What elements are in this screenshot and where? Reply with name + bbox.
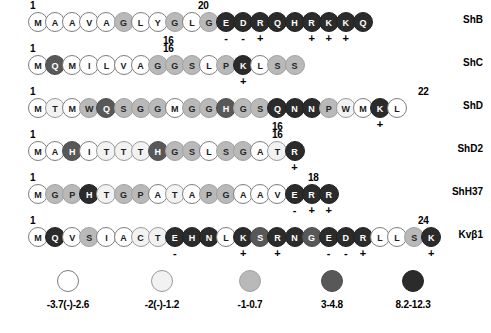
residue-bead-track: MTMWQSGGMGGHGSQNNPWMKL: [28, 98, 491, 119]
legend-swatch-circle: [239, 270, 261, 292]
start-position-label: 1: [30, 215, 35, 226]
legend-range-label: -3.7(-)-2.6: [18, 299, 118, 310]
legend-swatch-circle: [151, 270, 173, 292]
legend-item: -2(-)-1.2: [112, 262, 212, 310]
start-position-label: 1: [30, 86, 35, 97]
charge-sign: +: [336, 33, 356, 43]
charge-sign: -: [165, 248, 185, 258]
start-position-label: 1: [30, 0, 35, 11]
chain-name-label: ShD2: [457, 143, 483, 155]
charge-sign: +: [267, 248, 287, 258]
charge-sign: +: [421, 248, 441, 258]
charge-sign: +: [285, 162, 305, 172]
end-position-label: 22: [418, 86, 429, 97]
residue-number-row: 122: [0, 86, 491, 98]
sequence-row: 120MAAVAGLYGLGEDRQHRKKQ--++++16ShB: [0, 0, 491, 43]
end-position-label: 16: [272, 129, 283, 140]
sequence-row: 124MQVSIACTEHNLKSRNGEDRLLSK-++--++Kvβ1: [0, 215, 491, 258]
chain-name-label: ShD: [463, 100, 483, 112]
legend-swatch-circle: [57, 270, 79, 292]
legend-range-label: 8.2-12.3: [363, 299, 463, 310]
chain-name-label: ShH37: [452, 186, 483, 198]
start-position-label: 1: [30, 129, 35, 140]
charge-sign: +: [370, 119, 390, 129]
residue-bead: R: [319, 184, 339, 204]
charge-row: -++: [28, 205, 491, 215]
residue-number-row: 116: [0, 43, 491, 55]
charge-sign: +: [250, 33, 270, 43]
sequence-row: 116MQMILVAGGSLPKLSS+ShC: [0, 43, 491, 86]
charge-row: +: [28, 76, 491, 86]
legend-range-label: -2(-)-1.2: [112, 299, 212, 310]
charge-row: -++--++: [28, 248, 491, 258]
charge-sign: +: [233, 76, 253, 86]
residue-number-row: 116: [0, 129, 491, 141]
sequence-figure: 120MAAVAGLYGLGEDRQHRKKQ--++++16ShB116MQM…: [0, 0, 491, 333]
residue-number-row: 124: [0, 215, 491, 227]
residue-bead: K: [421, 227, 441, 247]
chain-name-label: ShC: [463, 57, 483, 69]
residue-bead-track: MAHITTTHGSLSGATR: [28, 141, 491, 162]
start-position-label: 1: [30, 172, 35, 183]
sequence-row: 118MGPHTGPATAPGAAVERR-++ShH37: [0, 172, 491, 215]
legend-swatch-circle: [402, 270, 424, 292]
charge-sign: +: [353, 248, 373, 258]
end-position-label: 24: [418, 215, 429, 226]
start-position-label: 1: [30, 43, 35, 54]
legend-item: -3.7(-)-2.6: [18, 262, 118, 310]
residue-bead-track: MGPHTGPATAPGAAVERR: [28, 184, 491, 205]
chain-name-label: ShB: [463, 14, 483, 26]
residue-number-row: 118: [0, 172, 491, 184]
residue-bead: L: [387, 98, 407, 118]
residue-number-row: 120: [0, 0, 491, 12]
end-position-label: 16: [163, 43, 174, 54]
residue-bead: S: [285, 55, 305, 75]
chain-name-label: Kvβ1: [459, 229, 483, 241]
charge-row: +16: [28, 119, 491, 129]
legend-swatch-circle: [321, 270, 343, 292]
residue-bead-track: MQVSIACTEHNLKSRNGEDRLLSK: [28, 227, 491, 248]
end-position-label: 20: [198, 0, 209, 11]
charge-sign: +: [233, 248, 253, 258]
residue-bead-track: MAAVAGLYGLGEDRQHRKKQ: [28, 12, 491, 33]
charge-row: +: [28, 162, 491, 172]
residue-bead: R: [285, 141, 305, 161]
hydrophobicity-legend: -3.7(-)-2.6-2(-)-1.2-1-0.73-4.88.2-12.3: [0, 262, 491, 333]
sequence-row: 122MTMWQSGGMGGHGSQNNPWMKL+16ShD: [0, 86, 491, 129]
charge-row: --++++16: [28, 33, 491, 43]
residue-bead-track: MQMILVAGGSLPKLSS: [28, 55, 491, 76]
charge-sign: +: [319, 205, 339, 215]
residue-bead: Q: [353, 12, 373, 32]
sequence-row: 116MAHITTTHGSLSGATR+ShD2: [0, 129, 491, 172]
end-position-label: 18: [308, 172, 319, 183]
legend-item: 8.2-12.3: [363, 262, 463, 310]
